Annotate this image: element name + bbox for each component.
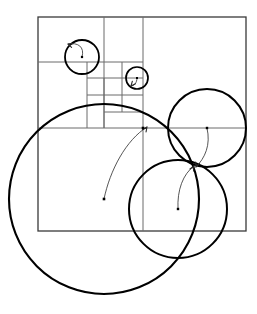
dot-tiny-circle [136, 77, 138, 79]
dot-lower-right-circle [177, 208, 179, 210]
arrows-layer [68, 44, 208, 209]
geometric-diagram [0, 0, 257, 314]
dot-small-circle [81, 56, 83, 58]
grid-layer [38, 17, 246, 231]
outer-rectangle [38, 17, 246, 231]
figure-root [0, 0, 257, 314]
arrow-path-large-circle [104, 127, 147, 199]
dots-layer [81, 56, 208, 210]
dot-large-circle [103, 198, 106, 201]
arrowhead-lower-right-circle [190, 166, 194, 171]
arrow-path-upper-right-circle [196, 128, 208, 167]
arrow-path-lower-right-circle [178, 166, 194, 209]
dot-grid-intersection [142, 127, 145, 130]
dot-upper-right-circle [206, 127, 208, 129]
arrowhead-tiny-circle-mid [131, 81, 136, 86]
